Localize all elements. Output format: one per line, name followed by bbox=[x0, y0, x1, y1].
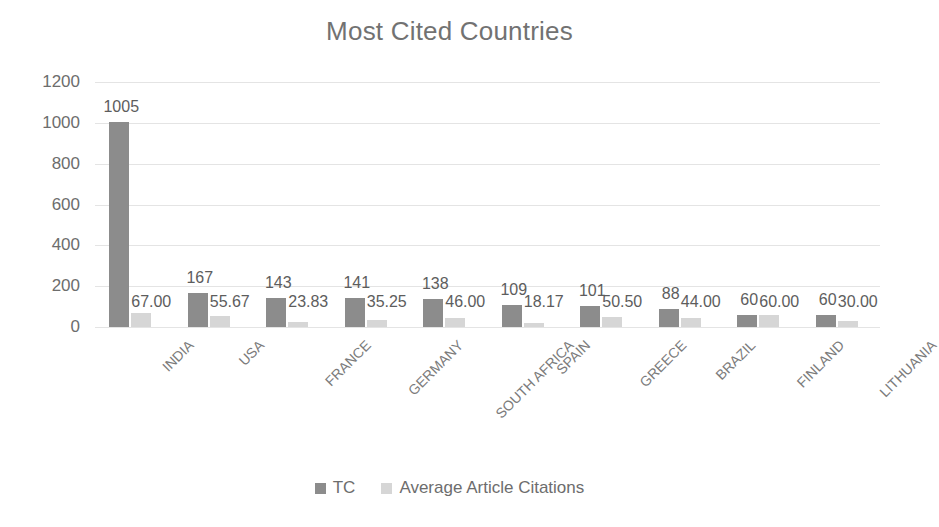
y-axis-tick-label: 1000 bbox=[42, 113, 80, 133]
data-label-average-article-citations: 30.00 bbox=[838, 293, 878, 311]
bar-tc bbox=[737, 315, 757, 327]
y-axis: 020040060080010001200 bbox=[0, 82, 88, 327]
bar-average-article-citations bbox=[681, 318, 701, 327]
gridline bbox=[95, 164, 880, 165]
plot-area: 100567.00INDIA16755.67USA14323.83FRANCE1… bbox=[95, 82, 880, 327]
data-label-average-article-citations: 46.00 bbox=[445, 293, 485, 311]
bar-tc bbox=[266, 298, 286, 327]
data-label-tc: 1005 bbox=[103, 98, 139, 116]
gridline bbox=[95, 327, 880, 328]
legend-label: Average Article Citations bbox=[399, 478, 584, 498]
x-axis-category-label: SOUTH AFRICA bbox=[493, 337, 577, 421]
data-label-tc: 138 bbox=[422, 275, 449, 293]
bar-average-article-citations bbox=[838, 321, 858, 327]
chart-title: Most Cited Countries bbox=[0, 16, 899, 47]
gridline bbox=[95, 245, 880, 246]
y-axis-tick-label: 600 bbox=[52, 195, 80, 215]
data-label-average-article-citations: 23.83 bbox=[288, 293, 328, 311]
x-axis-category-label: FINLAND bbox=[794, 337, 848, 391]
legend-swatch-icon bbox=[381, 483, 392, 494]
legend-item[interactable]: Average Article Citations bbox=[381, 478, 584, 498]
bar-average-article-citations bbox=[445, 318, 465, 327]
data-label-tc: 167 bbox=[186, 269, 213, 287]
x-axis-category-label: FRANCE bbox=[322, 337, 374, 389]
data-label-average-article-citations: 55.67 bbox=[210, 293, 250, 311]
x-axis-category-label: LITHUANIA bbox=[876, 337, 939, 400]
data-label-average-article-citations: 67.00 bbox=[131, 293, 171, 311]
bar-average-article-citations bbox=[524, 323, 544, 327]
x-axis-category-label: GREECE bbox=[637, 337, 690, 390]
y-axis-tick-label: 400 bbox=[52, 235, 80, 255]
data-label-average-article-citations: 50.50 bbox=[602, 293, 642, 311]
data-label-average-article-citations: 60.00 bbox=[759, 293, 799, 311]
chart-legend: TCAverage Article Citations bbox=[0, 478, 899, 498]
gridline bbox=[95, 205, 880, 206]
x-axis-category-label: USA bbox=[235, 337, 267, 369]
bar-average-article-citations bbox=[602, 317, 622, 327]
bar-tc bbox=[423, 299, 443, 327]
bar-average-article-citations bbox=[367, 320, 387, 327]
legend-item[interactable]: TC bbox=[315, 478, 356, 498]
bar-tc bbox=[188, 293, 208, 327]
bar-tc bbox=[345, 298, 365, 327]
data-label-tc: 60 bbox=[740, 291, 758, 309]
y-axis-tick-label: 1200 bbox=[42, 72, 80, 92]
bar-average-article-citations bbox=[288, 322, 308, 327]
legend-swatch-icon bbox=[315, 483, 326, 494]
y-axis-tick-label: 200 bbox=[52, 276, 80, 296]
bar-tc bbox=[502, 305, 522, 327]
x-axis-category-label: BRAZIL bbox=[712, 337, 758, 383]
bar-average-article-citations bbox=[131, 313, 151, 327]
bar-average-article-citations bbox=[759, 315, 779, 327]
data-label-tc: 143 bbox=[265, 274, 292, 292]
bar-average-article-citations bbox=[210, 316, 230, 327]
legend-label: TC bbox=[333, 478, 356, 498]
gridline bbox=[95, 82, 880, 83]
x-axis-category-label: GERMANY bbox=[404, 337, 465, 398]
data-label-average-article-citations: 35.25 bbox=[367, 293, 407, 311]
x-axis-category-label: INDIA bbox=[159, 337, 197, 375]
y-axis-tick-label: 0 bbox=[71, 317, 80, 337]
data-label-average-article-citations: 18.17 bbox=[524, 293, 564, 311]
bar-tc bbox=[816, 315, 836, 327]
bar-tc bbox=[580, 306, 600, 327]
gridline bbox=[95, 123, 880, 124]
data-label-tc: 60 bbox=[819, 291, 837, 309]
bar-tc bbox=[109, 122, 129, 327]
bar-tc bbox=[659, 309, 679, 327]
data-label-average-article-citations: 44.00 bbox=[681, 293, 721, 311]
data-label-tc: 88 bbox=[662, 285, 680, 303]
y-axis-tick-label: 800 bbox=[52, 154, 80, 174]
data-label-tc: 141 bbox=[343, 274, 370, 292]
